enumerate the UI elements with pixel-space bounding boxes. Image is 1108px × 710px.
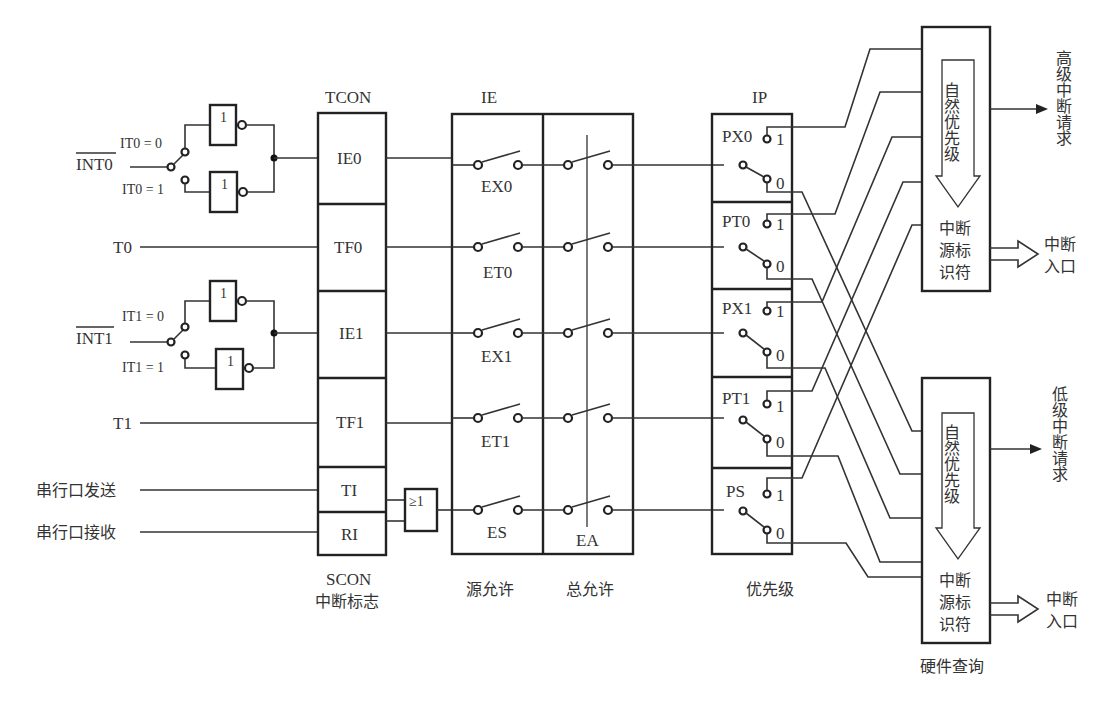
svg-text:1: 1 (776, 486, 785, 505)
serial-tx-label: 串行口发送 (36, 481, 116, 500)
tcon-cell-tf0: TF0 (334, 238, 362, 257)
hollow-arrow-icon (990, 241, 1038, 267)
switch-es-label: ES (487, 523, 507, 542)
svg-text:PT1: PT1 (722, 389, 750, 408)
svg-text:0: 0 (776, 524, 785, 543)
int1-label: INT1 (76, 329, 113, 348)
svg-text:入口: 入口 (1046, 612, 1078, 631)
t0-label: T0 (113, 238, 132, 257)
arrow-right-icon (1036, 104, 1048, 114)
switch-et1-label: ET1 (481, 432, 510, 451)
switch-et0-label: ET0 (483, 263, 512, 282)
scon-label: SCON (326, 570, 371, 589)
svg-text:PT0: PT0 (722, 212, 750, 231)
it0-1-label: IT0 = 1 (122, 182, 164, 197)
ip-cell-px0: PX0 1 0 (722, 127, 785, 193)
svg-text:1: 1 (220, 286, 227, 301)
svg-text:中断: 中断 (939, 571, 971, 590)
ie-switch-rows: EX0 ET0 EX1 ET1 (452, 151, 724, 542)
int0-input-group: INT0 IT0 = 0 IT0 = 1 1 1 (76, 105, 318, 212)
svg-text:0: 0 (776, 433, 785, 452)
hollow-arrow-icon (990, 596, 1038, 622)
it1-1-label: IT1 = 1 (122, 360, 164, 375)
svg-text:1: 1 (776, 397, 785, 416)
svg-text:1: 1 (227, 354, 234, 369)
svg-text:1: 1 (221, 177, 228, 192)
svg-text:≥1: ≥1 (409, 494, 424, 509)
source-enable-label: 源允许 (466, 580, 514, 599)
interrupt-flag-label: 中断标志 (315, 592, 379, 611)
tcon-cell-tf1: TF1 (336, 413, 364, 432)
natural-priority-label-high: 自然优先级 (941, 82, 960, 162)
svg-text:0: 0 (776, 174, 785, 193)
svg-text:源标: 源标 (939, 241, 971, 260)
high-interrupt-request-label: 高级中断请求 (1053, 50, 1072, 146)
global-enable-label: 总允许 (566, 580, 614, 599)
svg-text:1: 1 (776, 302, 785, 321)
low-interrupt-request-label: 低级中断请求 (1049, 386, 1068, 482)
low-priority-block: 自然优先级 中断 源标 识符 低级中断请求 中断 入口 硬件查询 (920, 378, 1078, 676)
svg-text:PX1: PX1 (722, 299, 752, 318)
svg-text:1: 1 (776, 215, 785, 234)
ip-cell-pt1: PT1 1 0 (722, 389, 785, 452)
tcon-cell-ie1: IE1 (339, 324, 364, 343)
priority-label: 优先级 (746, 580, 794, 599)
it1-0-label: IT1 = 0 (122, 309, 164, 324)
switch-ex0-label: EX0 (481, 177, 512, 196)
ea-label: EA (576, 531, 599, 550)
ip-cell-px1: PX1 1 0 (722, 299, 785, 365)
ip-cell-ps: PS 1 0 (726, 482, 785, 543)
hardware-polling-label: 硬件查询 (920, 657, 984, 676)
int0-label: INT0 (76, 155, 113, 174)
svg-text:1: 1 (776, 130, 785, 149)
svg-text:源标: 源标 (939, 593, 971, 612)
it0-0-label: IT0 = 0 (120, 136, 162, 151)
switch-ex1-label: EX1 (481, 347, 512, 366)
high-priority-block: 自然优先级 中断 源标 识符 高级中断请求 中断 入口 (922, 27, 1076, 291)
ip-cell-pt0: PT0 1 0 (722, 212, 785, 276)
ie-title: IE (481, 88, 497, 107)
or-gate: ≥1 (386, 489, 437, 531)
scon-cell-ri: RI (341, 525, 358, 544)
tcon-cell-ie0: IE0 (337, 149, 362, 168)
natural-priority-label-low: 自然优先级 (941, 424, 960, 504)
int1-input-group: INT1 IT1 = 0 IT1 = 1 1 1 (76, 281, 318, 389)
svg-text:中断: 中断 (1044, 235, 1076, 254)
svg-text:识符: 识符 (939, 615, 971, 634)
svg-text:入口: 入口 (1044, 257, 1076, 276)
svg-text:PS: PS (726, 482, 745, 501)
svg-text:1: 1 (220, 110, 227, 125)
scon-cell-ti: TI (341, 481, 357, 500)
t1-label: T1 (113, 414, 132, 433)
svg-text:PX0: PX0 (722, 127, 752, 146)
svg-text:识符: 识符 (939, 263, 971, 282)
svg-text:0: 0 (776, 346, 785, 365)
svg-text:0: 0 (776, 257, 785, 276)
tcon-register: TCON IE0 TF0 IE1 TF1 TI RI SCON 中断标志 (315, 88, 386, 611)
serial-rx-label: 串行口接收 (36, 523, 116, 542)
priority-routing-wires (767, 49, 922, 577)
ip-register: IP 优先级 (712, 88, 794, 599)
svg-text:中断: 中断 (939, 219, 971, 238)
arrow-right-icon (1030, 444, 1042, 454)
ip-title: IP (752, 88, 767, 107)
tcon-title: TCON (325, 88, 371, 107)
interrupt-diagram: INT0 IT0 = 0 IT0 = 1 1 1 T0 INT1 IT1 = 0… (0, 0, 1108, 710)
svg-text:中断: 中断 (1046, 590, 1078, 609)
